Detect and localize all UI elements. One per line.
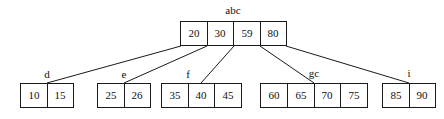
tree-canvas: abc 20 30 59 80 d 10 15 e 25 26 — [0, 0, 444, 119]
leaf-cell-value: 70 — [322, 89, 334, 101]
leaf-node-f: f 35 40 45 — [162, 68, 242, 108]
root-node-label: abc — [225, 4, 240, 16]
leaf-cell-value: 10 — [29, 89, 41, 101]
root-node: 20 30 59 80 — [181, 22, 287, 46]
leaf-cell-value: 35 — [170, 89, 182, 101]
root-cell-value: 80 — [268, 27, 280, 39]
edge-root-to-leaf-d — [47, 46, 181, 83]
edge-root-to-leaf-i — [286, 46, 409, 83]
leaf-label-d: d — [44, 68, 50, 80]
root-cell-value: 59 — [242, 27, 254, 39]
edge-root-to-leaf-e — [124, 46, 207, 83]
leaf-cell-value: 40 — [196, 89, 208, 101]
leaf-node-gc: gc 60 65 70 75 — [261, 67, 368, 108]
leaf-cell-value: 75 — [349, 89, 361, 101]
leaf-node-e: e 25 26 — [98, 68, 151, 108]
leaf-cell-value: 90 — [417, 89, 429, 101]
b-plus-tree-diagram: abc 20 30 59 80 d 10 15 e 25 26 — [0, 0, 444, 119]
root-cell-value: 20 — [189, 27, 201, 39]
edge-root-to-leaf-f — [201, 46, 234, 83]
leaf-cell-value: 45 — [223, 89, 235, 101]
leaf-node-i: i 85 90 — [383, 67, 436, 108]
leaf-cell-value: 65 — [296, 89, 308, 101]
leaf-label-gc: gc — [309, 67, 320, 79]
leaf-label-e: e — [122, 68, 127, 80]
leaf-cell-value: 15 — [55, 89, 67, 101]
leaf-node-d: d 10 15 — [21, 68, 74, 108]
leaf-cell-value: 25 — [106, 89, 118, 101]
leaf-label-i: i — [407, 67, 410, 79]
leaf-label-f: f — [186, 68, 190, 80]
leaf-cell-value: 85 — [391, 89, 403, 101]
leaf-cell-value: 26 — [132, 89, 144, 101]
leaf-cell-value: 60 — [269, 89, 281, 101]
edge-group — [47, 46, 409, 83]
root-cell-value: 30 — [215, 27, 227, 39]
